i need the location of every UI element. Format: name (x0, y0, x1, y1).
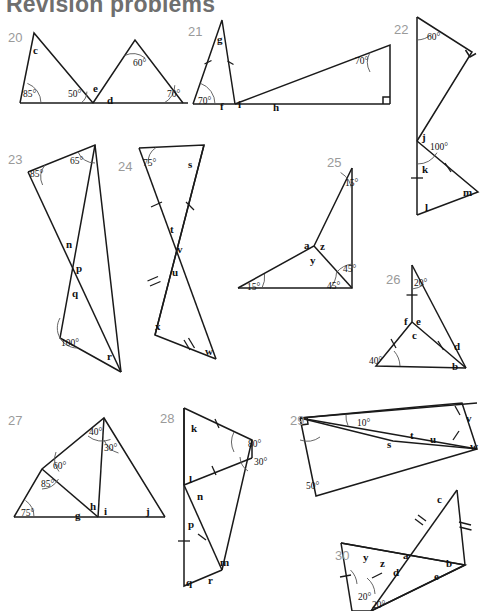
figure-26-label-e: e (416, 315, 421, 327)
figure-23-label-r: r (107, 350, 112, 362)
figure-23-angle-1: 65° (70, 156, 83, 166)
figure-24-label-x: x (155, 320, 161, 332)
figure-20-angle-0: 85° (23, 89, 36, 99)
figure-30-label-e: e (434, 570, 439, 582)
figure-28-label-k: k (191, 422, 197, 434)
figure-26-label-f: f (404, 315, 408, 327)
figure-number-28: 28 (160, 411, 174, 426)
figure-number-29: 29 (290, 413, 304, 428)
figure-20-angle-1: 50° (68, 89, 81, 99)
figure-25-angle-0: 15° (345, 178, 358, 188)
figure-24-label-v: v (177, 243, 183, 255)
figure-number-25: 25 (327, 155, 341, 170)
figure-30-label-c: c (437, 493, 442, 505)
figure-20-label-d: d (107, 94, 113, 106)
figure-29-label-t: t (410, 429, 414, 441)
figure-27-angle-2: 60° (53, 461, 66, 471)
worksheet-page: Revision problems (0, 0, 492, 611)
figure-number-21: 21 (188, 24, 202, 39)
figure-21-label-i: i (238, 98, 241, 110)
figure-26-label-d: d (454, 340, 460, 352)
figure-25-label-a: a (304, 239, 310, 251)
figure-21-label-g: g (217, 33, 223, 45)
figure-24-label-t: t (170, 223, 174, 235)
figure-24-label-u: u (172, 266, 178, 278)
figure-20-angle-2: 60° (133, 58, 146, 68)
figure-23-label-q: q (72, 287, 78, 299)
figure-29-label-s: s (387, 438, 391, 450)
figure-20-shape (20, 33, 188, 103)
figure-number-23: 23 (8, 152, 22, 167)
figure-number-27: 27 (8, 413, 22, 428)
figure-28-label-p: p (188, 518, 194, 530)
figure-25-shape (238, 168, 352, 288)
figure-25-angle-1: 15° (247, 282, 260, 292)
figure-22-angle-1: 100° (430, 142, 448, 152)
figure-20-label-c: c (33, 44, 38, 56)
figure-22-label-m: m (463, 186, 472, 198)
figure-30-label-a: a (403, 549, 409, 561)
figure-28-shape (178, 408, 252, 586)
figure-30-label-d: d (393, 566, 399, 578)
figure-27-angle-4: 75° (21, 508, 34, 518)
figure-29-angle-0: 10° (357, 418, 370, 428)
figure-23-angle-2: 100° (61, 338, 79, 348)
figure-27-angle-3: 85° (41, 479, 54, 489)
figure-29-label-w: w (470, 440, 478, 452)
figure-number-26: 26 (386, 272, 400, 287)
figure-29-label-u: u (430, 433, 436, 445)
figure-21-label-h: h (273, 101, 279, 113)
figure-25-angle-2: 45° (343, 264, 356, 274)
figure-30-angle-1: 20° (372, 600, 385, 610)
figure-27-label-h: h (90, 500, 96, 512)
figure-28-label-n: n (197, 490, 203, 502)
figure-25-angle-3: 45° (327, 281, 340, 291)
figure-24-label-s: s (188, 158, 192, 170)
figure-25-label-z: z (320, 240, 325, 252)
figure-23-label-p: p (76, 262, 82, 274)
figure-22-label-l: l (425, 201, 428, 213)
figure-29-label-v: v (466, 412, 472, 424)
figure-23-label-n: n (66, 238, 72, 250)
figure-24-label-w: w (205, 345, 213, 357)
figure-27-label-g: g (75, 509, 81, 521)
figure-30-label-b: b (446, 557, 452, 569)
figure-number-20: 20 (8, 30, 22, 45)
figure-25-label-y: y (310, 254, 316, 266)
figure-22-angle-0: 60° (427, 32, 440, 42)
figure-26-label-b: b (452, 360, 458, 372)
figure-28-label-r: r (208, 574, 213, 586)
figure-27-angle-1: 30° (104, 443, 117, 453)
figure-number-24: 24 (118, 159, 132, 174)
figure-28-label-l: l (189, 473, 192, 485)
figure-number-30: 30 (335, 548, 349, 563)
figure-27-angle-0: 40° (89, 427, 102, 437)
figure-23-angle-0: 85° (30, 169, 43, 179)
figure-26-label-c: c (412, 329, 417, 341)
figure-26-angle-0: 20° (414, 278, 427, 288)
figure-28-angle-1: 30° (254, 457, 267, 467)
figure-20-angle-3: 70° (167, 89, 180, 99)
figure-number-22: 22 (394, 22, 408, 37)
figure-28-label-q: q (186, 576, 192, 588)
figure-30-label-y: y (363, 551, 369, 563)
figure-29-angle-1: 50° (306, 481, 319, 491)
figure-27-label-i: i (104, 505, 107, 517)
figure-21-label-f: f (220, 100, 224, 112)
figure-28-label-m: m (220, 556, 229, 568)
figure-21-angle-1: 70° (355, 56, 368, 66)
figure-30-angle-0: 20° (358, 592, 371, 602)
figure-22-label-j: j (422, 131, 426, 143)
figure-30-label-z: z (380, 557, 385, 569)
figure-21-angle-0: 70° (198, 96, 211, 106)
figure-24-angle-0: 75° (143, 158, 156, 168)
figure-22-label-k: k (422, 163, 428, 175)
figure-20-label-e: e (93, 82, 98, 94)
figure-26-angle-1: 40° (369, 356, 382, 366)
figure-27-label-j: j (146, 505, 150, 517)
figure-28-angle-0: 80° (248, 439, 261, 449)
